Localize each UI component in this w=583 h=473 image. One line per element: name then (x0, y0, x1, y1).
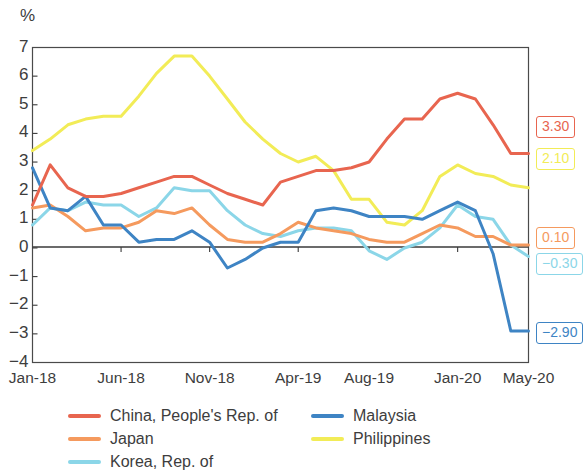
legend-label: Malaysia (353, 407, 416, 425)
legend-item[interactable]: Japan (68, 428, 278, 449)
legend-label: Philippines (353, 430, 430, 448)
legend-label: China, People's Rep. of (110, 407, 278, 425)
legend-color-swatch (68, 414, 101, 418)
legend-item[interactable]: Malaysia (311, 405, 430, 426)
legend-color-swatch (311, 414, 344, 418)
legend-item[interactable]: Philippines (311, 428, 430, 449)
legend-color-swatch (311, 437, 344, 441)
legend-color-swatch (68, 437, 101, 441)
legend-label: Japan (110, 430, 154, 448)
legend-item[interactable]: Korea, Rep. of (68, 451, 278, 472)
malaysia-end-value: −2.90 (536, 322, 583, 344)
japan-end-value: 0.10 (536, 227, 575, 249)
china-end-value: 3.30 (536, 116, 575, 138)
chart-legend: China, People's Rep. ofJapanKorea, Rep. … (0, 405, 578, 473)
legend-column-left: China, People's Rep. ofJapanKorea, Rep. … (68, 405, 278, 473)
legend-item[interactable]: China, People's Rep. of (68, 405, 278, 426)
korea-end-value: −0.30 (536, 253, 583, 275)
legend-column-right: MalaysiaPhilippines (311, 405, 430, 451)
philippines-end-value: 2.10 (536, 148, 575, 170)
legend-color-swatch (68, 460, 101, 464)
legend-label: Korea, Rep. of (110, 453, 213, 471)
